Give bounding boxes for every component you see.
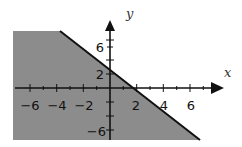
x-tick-label: 4	[160, 98, 168, 113]
y-tick-label: 2	[96, 67, 104, 82]
x-tick-label: −4	[47, 98, 66, 113]
x-tick-label: −6	[20, 98, 39, 113]
x-tick-label: −2	[74, 98, 93, 113]
y-axis-arrow-icon	[105, 20, 115, 31]
y-tick-label: 6	[96, 40, 104, 55]
inequality-graph: −6 −4 −2 2 4 6 6 2 −6 y x	[0, 0, 242, 147]
x-axis-label: x	[224, 65, 232, 80]
x-tick-label: 6	[187, 98, 195, 113]
x-tick-label: 2	[132, 98, 140, 113]
y-tick-label: −6	[87, 124, 106, 139]
shaded-region	[13, 31, 200, 140]
x-axis-arrow-icon	[211, 82, 224, 94]
y-axis-label: y	[125, 6, 134, 21]
